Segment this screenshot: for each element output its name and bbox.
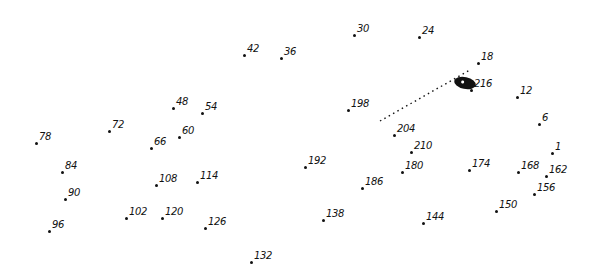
dotted-trail — [0, 0, 593, 280]
dot-marker — [61, 171, 64, 174]
dot-marker — [172, 107, 175, 110]
dot-label: 120 — [165, 206, 183, 217]
dot-label: 36 — [284, 46, 296, 57]
dot-label: 162 — [549, 164, 567, 175]
dot-marker — [551, 152, 554, 155]
dot-label: 204 — [397, 123, 415, 134]
dot-label: 48 — [176, 96, 188, 107]
dot-label: 174 — [472, 158, 490, 169]
dot-label: 192 — [308, 155, 326, 166]
dot-marker — [201, 112, 204, 115]
dot-label: 144 — [426, 211, 444, 222]
dot-marker — [304, 166, 307, 169]
dot-marker — [393, 134, 396, 137]
dot-marker — [495, 210, 498, 213]
dot-label: 114 — [200, 170, 218, 181]
dot-label: 24 — [422, 25, 434, 36]
dot-marker — [545, 175, 548, 178]
dot-label: 210 — [414, 140, 432, 151]
dot-marker — [347, 109, 350, 112]
dot-marker — [108, 130, 111, 133]
dot-label: 78 — [39, 131, 51, 142]
dot-label: 18 — [481, 51, 493, 62]
dot-label: 216 — [474, 78, 492, 89]
dot-label: 126 — [208, 216, 226, 227]
dot-marker — [250, 261, 253, 264]
dot-marker — [516, 96, 519, 99]
dot-label: 6 — [542, 112, 548, 123]
dot-marker — [178, 136, 181, 139]
dot-label: 138 — [326, 208, 344, 219]
dot-marker — [410, 151, 413, 154]
dot-label: 132 — [254, 250, 272, 261]
dot-marker — [161, 217, 164, 220]
dot-label: 186 — [365, 176, 383, 187]
dot-label: 156 — [537, 182, 555, 193]
dot-marker — [204, 227, 207, 230]
dot-marker — [150, 147, 153, 150]
dot-label: 180 — [405, 160, 423, 171]
dot-marker — [361, 187, 364, 190]
dot-label: 150 — [499, 199, 517, 210]
dot-label: 1 — [555, 141, 561, 152]
dot-marker — [401, 171, 404, 174]
dot-label: 84 — [65, 160, 77, 171]
dot-label: 42 — [247, 43, 259, 54]
dot-label: 30 — [357, 23, 369, 34]
dot-marker — [353, 34, 356, 37]
dot-marker — [243, 54, 246, 57]
dot-puzzle-canvas: 1612182430364248546066727884909610210811… — [0, 0, 593, 280]
dot-marker — [125, 217, 128, 220]
dot-marker — [538, 123, 541, 126]
dot-marker — [517, 171, 520, 174]
dot-label: 102 — [129, 206, 147, 217]
dot-label: 54 — [205, 101, 217, 112]
dot-label: 60 — [182, 125, 194, 136]
dot-marker — [48, 230, 51, 233]
dot-marker — [468, 169, 471, 172]
dot-label: 198 — [351, 98, 369, 109]
dot-marker — [477, 62, 480, 65]
dot-label: 168 — [521, 160, 539, 171]
dot-marker — [422, 222, 425, 225]
dot-marker — [64, 198, 67, 201]
dot-marker — [155, 184, 158, 187]
dot-marker — [35, 142, 38, 145]
dot-label: 96 — [52, 219, 64, 230]
dot-label: 66 — [154, 136, 166, 147]
dot-marker — [322, 219, 325, 222]
dot-label: 108 — [159, 173, 177, 184]
dot-marker — [470, 89, 473, 92]
dot-marker — [533, 193, 536, 196]
dot-marker — [196, 181, 199, 184]
dot-marker — [418, 36, 421, 39]
dot-label: 72 — [112, 119, 124, 130]
dot-label: 12 — [520, 85, 532, 96]
dot-marker — [280, 57, 283, 60]
dot-label: 90 — [68, 187, 80, 198]
